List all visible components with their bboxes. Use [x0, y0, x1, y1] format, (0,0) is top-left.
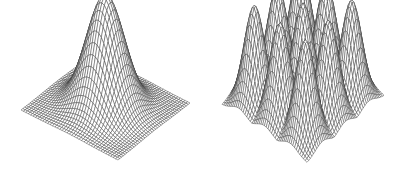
surface-plot-single-peak: Single Gaussian peak surface — [0, 0, 203, 169]
wireframe-surface — [0, 0, 203, 169]
wireframe-mesh — [222, 0, 384, 162]
surface-plot-nine-peaks: Nine Gaussian peaks surface (3x3 grid) — [203, 0, 406, 169]
wireframe-mesh — [21, 0, 190, 160]
wireframe-surface — [203, 0, 406, 169]
